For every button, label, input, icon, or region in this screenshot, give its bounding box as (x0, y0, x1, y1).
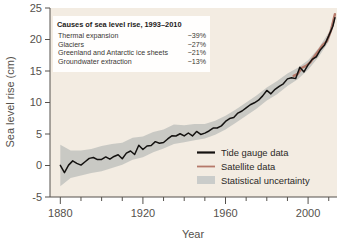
x-tick-label: 1960 (213, 207, 237, 219)
annotation-row-label: Thermal expansion (58, 32, 118, 40)
annotation-box-title: Causes of sea level rise, 1993–2010 (57, 20, 182, 29)
x-tick-label: 2000 (296, 207, 320, 219)
y-tick-label: 20 (30, 33, 42, 45)
y-tick-label: 5 (36, 128, 42, 140)
y-tick-label: 25 (30, 2, 42, 14)
annotation-row-label: Groundwater extraction (58, 58, 132, 66)
legend-label: Statistical uncertainty (221, 175, 310, 186)
y-tick-label: -5 (32, 191, 42, 203)
y-tick-label: 15 (30, 65, 42, 77)
legend-label: Satellite data (221, 161, 276, 172)
x-axis-title: Year (182, 228, 205, 240)
annotation-row-value: ~39% (188, 32, 207, 40)
chart-canvas: -50510152025 1880192019602000 Sea level … (0, 0, 348, 246)
y-tick-label: 0 (36, 159, 42, 171)
annotation-row-label: Glaciers (58, 41, 84, 49)
legend-label: Tide gauge data (221, 147, 289, 158)
annotation-row-value: ~21% (188, 49, 207, 57)
annotation-row-value: ~27% (188, 41, 207, 49)
annotation-row-label: Greenland and Antarctic ice sheets (58, 49, 168, 57)
y-tick-label: 10 (30, 96, 42, 108)
y-axis-title: Sea level rise (cm) (4, 56, 16, 147)
annotation-row-value: ~13% (188, 58, 207, 66)
legend-area-swatch (197, 176, 215, 184)
x-tick-label: 1880 (48, 207, 72, 219)
sea-level-rise-chart: -50510152025 1880192019602000 Sea level … (0, 0, 348, 246)
x-tick-label: 1920 (131, 207, 155, 219)
causes-annotation-box: Causes of sea level rise, 1993–2010 Ther… (53, 16, 210, 72)
